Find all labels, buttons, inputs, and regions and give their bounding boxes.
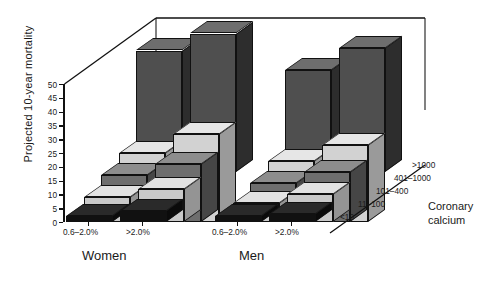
depth-axis bbox=[0, 0, 487, 288]
x-tick-women-low bbox=[88, 222, 89, 226]
x-label-women-low: 0.6–2.0% bbox=[63, 227, 98, 237]
x-tick-men-low bbox=[237, 222, 238, 226]
x-label-men-high: >2.0% bbox=[275, 227, 299, 237]
depth-label-lt10: <10 bbox=[340, 212, 354, 222]
x-tick-men-high bbox=[291, 222, 292, 226]
depth-label-gt1000: >1000 bbox=[412, 160, 435, 170]
x-tick-women-high bbox=[142, 222, 143, 226]
group-label-women: Women bbox=[82, 248, 127, 263]
depth-label-401-1000: 401–1000 bbox=[394, 173, 431, 183]
x-label-women-high: >2.0% bbox=[126, 227, 150, 237]
depth-axis-title-line2: calcium bbox=[428, 214, 465, 227]
depth-axis-title-line1: Coronary bbox=[428, 200, 473, 213]
x-label-men-low: 0.6–2.0% bbox=[212, 227, 247, 237]
chart-figure: Projected 10-year mortality 50 45 40 35 … bbox=[0, 0, 487, 288]
depth-label-101-400: 101–400 bbox=[376, 186, 408, 196]
depth-label-11-100: 11–100 bbox=[358, 199, 385, 209]
group-label-men: Men bbox=[239, 248, 264, 263]
